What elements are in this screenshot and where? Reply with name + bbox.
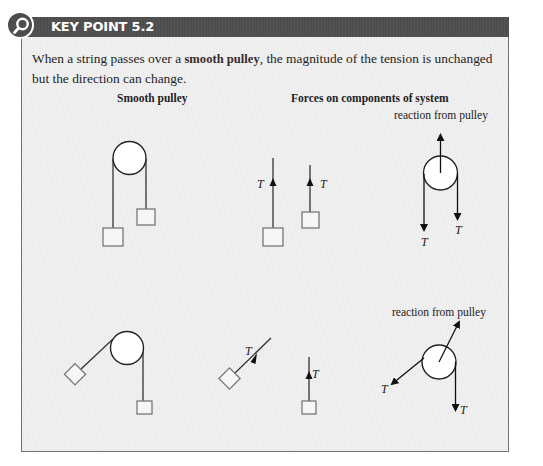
tension-label: T [421, 235, 429, 249]
tension-label: T [381, 382, 389, 396]
reaction-label: reaction from pulley [392, 306, 486, 319]
tension-label: T [312, 367, 320, 381]
tension-label: T [460, 403, 468, 417]
pulley-forces-vertical: reaction from pulley T T [394, 109, 488, 249]
pulley-system-vertical [103, 142, 155, 247]
mass-forces-angled: T T [219, 338, 320, 414]
pulley-system-angled [64, 332, 152, 415]
tension-label: T [257, 177, 265, 191]
tension-label: T [455, 223, 463, 237]
pulley-forces-angled: reaction from pulley T T [381, 306, 486, 417]
mass-forces-vertical: T T [257, 158, 328, 246]
reaction-label: reaction from pulley [394, 109, 488, 122]
tension-label: T [320, 177, 328, 191]
pulley-diagrams: T T reaction from pulley T T T T re [0, 0, 543, 466]
